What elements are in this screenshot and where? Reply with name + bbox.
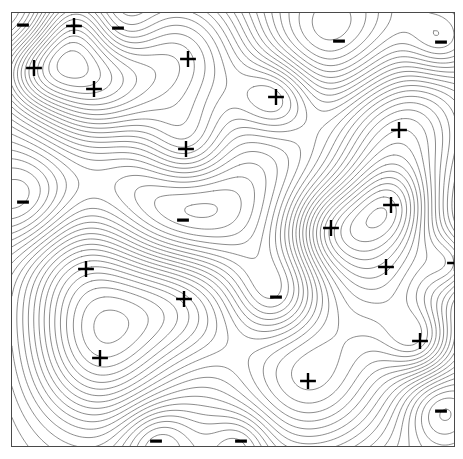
contour-line — [21, 13, 455, 413]
contour-line — [38, 30, 422, 375]
contour-line — [33, 25, 427, 383]
contour-line — [43, 36, 418, 367]
contour-line — [29, 19, 445, 390]
contour-line — [350, 197, 396, 242]
contour-line — [12, 13, 451, 420]
contour-line — [299, 13, 366, 51]
figure-canvas — [0, 0, 463, 459]
contour-line — [312, 13, 351, 40]
contour-line — [366, 208, 387, 228]
contour-lines — [12, 13, 455, 447]
contour-plot-frame — [11, 12, 455, 447]
contour-line — [341, 190, 402, 251]
